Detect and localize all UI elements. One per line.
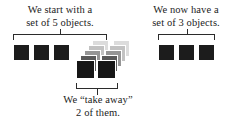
caption-result-set-line2: set of 3 objects. [144, 17, 228, 30]
object-square [97, 60, 116, 79]
caption-taken-away: We “take away” 2 of them. [52, 94, 144, 119]
caption-taken-away-line2: 2 of them. [52, 107, 144, 120]
object-square-fill [33, 44, 50, 61]
object-square [158, 44, 175, 61]
caption-result-set-line1: We now have a [144, 4, 228, 17]
bracket-result-set-bar [158, 34, 215, 35]
bracket-start-set-stem [60, 29, 61, 34]
object-square [76, 60, 95, 79]
object-square-fill [178, 44, 195, 61]
bracket-taken-away-stem [97, 89, 98, 95]
caption-start-set-line2: set of 5 objects. [13, 17, 107, 30]
caption-result-set: We now have a set of 3 objects. [144, 4, 228, 29]
bracket-taken-away [76, 82, 118, 89]
bracket-taken-away-leg-left [76, 83, 77, 89]
bracket-result-set [158, 34, 215, 41]
bracket-result-set-leg-right [214, 34, 215, 40]
bracket-start-set-leg-left [13, 34, 14, 40]
bracket-start-set-bar [13, 34, 107, 35]
caption-start-set: We start with a set of 5 objects. [13, 4, 107, 29]
bracket-result-set-leg-left [158, 34, 159, 40]
object-square [33, 44, 50, 61]
object-square [13, 44, 30, 61]
caption-taken-away-line1: We “take away” [52, 94, 144, 107]
caption-start-set-line1: We start with a [13, 4, 107, 17]
object-square [198, 44, 215, 61]
figure-subtraction-take-away: We start with a set of 5 objects. We now… [0, 0, 228, 125]
bracket-taken-away-leg-right [117, 83, 118, 89]
object-square-fill [13, 44, 30, 61]
object-square [178, 44, 195, 61]
bracket-result-set-stem [187, 29, 188, 34]
object-square-fill [97, 60, 116, 79]
object-square-fill [76, 60, 95, 79]
object-square [53, 44, 70, 61]
object-square-fill [158, 44, 175, 61]
object-square-fill [198, 44, 215, 61]
object-square-fill [53, 44, 70, 61]
